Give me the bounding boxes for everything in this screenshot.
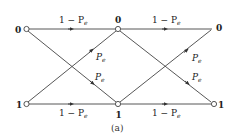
edge-label-left0-mid0: 1 − Pe (59, 15, 88, 26)
node-label-mid-0: 0 (115, 15, 121, 25)
channel-diagram: 0 1 0 1 0 1 1 − Pe 1 − Pe Pe Pe 1 − Pe 1… (0, 0, 230, 139)
edge-label-mid0-right0: 1 − Pe (152, 15, 181, 26)
edge-label-mid0-right1: Pe (191, 72, 202, 83)
node-left-1 (24, 101, 29, 106)
stage-2-edges (120, 29, 212, 104)
node-mid-1 (115, 101, 120, 106)
node-label-mid-1: 1 (116, 110, 122, 120)
edge-label-left0-mid1: Pe (94, 72, 105, 83)
edge-label-left1-mid0: Pe (95, 52, 106, 63)
node-label-right-0: 0 (216, 23, 222, 33)
node-label-left-0: 0 (15, 25, 21, 35)
edge-label-mid1-right1: 1 − Pe (152, 108, 181, 119)
node-mid-0 (115, 26, 120, 31)
figure-caption: (a) (111, 123, 123, 133)
node-label-right-1: 1 (218, 100, 224, 110)
arrow-icon (90, 81, 93, 84)
edge-label-mid1-right0: Pe (191, 53, 202, 64)
node-left-0 (24, 26, 29, 31)
edge-label-left1-mid1: 1 − Pe (59, 108, 88, 119)
node-right-1 (211, 101, 216, 106)
stage-1-edges (28, 29, 116, 104)
node-label-left-1: 1 (16, 100, 22, 110)
